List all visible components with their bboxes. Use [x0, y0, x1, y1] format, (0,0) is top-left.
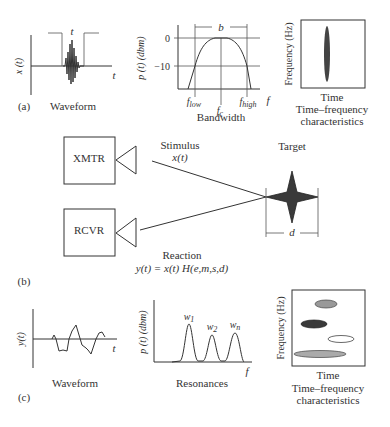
rcvr-antenna-icon [116, 218, 136, 247]
caption-line2: characteristics [301, 115, 364, 127]
resonance-ellipse-2 [301, 320, 327, 328]
panel-a: t t x (t) Waveform (a) b 0 −10 p (t) (db… [13, 20, 369, 127]
panel-label: (a) [18, 100, 31, 113]
waveform-x-plot: t t x (t) Waveform [13, 25, 116, 112]
caption: Bandwidth [197, 111, 246, 123]
w1-label: w1 [184, 311, 195, 324]
y-axis-label: Frequency (Hz) [275, 296, 287, 359]
x-axis-label: t [112, 342, 116, 354]
y-axis-label: Frequency (Hz) [283, 22, 295, 85]
bandwidth-curve [188, 38, 251, 89]
bandwidth-plot: b 0 −10 p (t) (dbm) f flow fc fhigh Band… [135, 21, 271, 123]
stimulus-path [152, 161, 266, 197]
w2-label: w2 [207, 321, 218, 334]
y-axis-label: y(t) [15, 331, 27, 347]
resonance-ellipse-1 [315, 300, 337, 308]
y-axis-label: x (t) [13, 57, 25, 75]
resonance-ellipse-4 [294, 351, 346, 358]
d-label: d [289, 226, 295, 238]
caption: Waveform [52, 377, 99, 389]
xmtr-antenna-icon [116, 146, 136, 174]
wn-label: wn [230, 319, 241, 332]
x-axis-label: t [112, 69, 116, 81]
resonance-ellipse-3 [328, 336, 354, 343]
pulse-waveform [63, 40, 84, 84]
impulse-ellipse [324, 26, 330, 82]
y-axis-label: p (t) (dbm) [137, 310, 149, 355]
rcvr-label: RCVR [74, 224, 105, 236]
resonances-plot: w1 w2 wn f p (t) (dbm) Resonances [137, 300, 252, 389]
panel-label: (c) [18, 391, 31, 404]
caption: Waveform [50, 100, 97, 112]
panel-label: (b) [18, 275, 31, 288]
y-axis-label: p (t) (dbm) [135, 36, 147, 81]
tick-0: 0 [165, 33, 170, 44]
caption: Resonances [176, 377, 228, 389]
f-low-label: flow [187, 96, 202, 109]
panel-b: XMTR RCVR Stimulus x(t) Target d Reactio… [18, 137, 318, 288]
time-frequency-plot-c: Frequency (Hz) Time Time–frequency chara… [275, 290, 365, 406]
time-frequency-plot-a: Frequency (Hz) Time Time–frequency chara… [283, 20, 369, 127]
pulse-width-label: t [70, 25, 74, 37]
radar-target-diagram: t t x (t) Waveform (a) b 0 −10 p (t) (db… [0, 0, 390, 427]
pulse-window-right [84, 33, 99, 66]
pulse-window-left [48, 33, 62, 66]
x-axis-label: f [266, 94, 271, 106]
xmtr-label: XMTR [73, 152, 105, 164]
x-axis-label: Time [317, 369, 340, 381]
x-axis-label: f [245, 365, 250, 377]
reaction-label: Reaction [162, 249, 202, 261]
x-axis-label: Time [321, 91, 344, 103]
stimulus-label: Stimulus [160, 139, 199, 151]
caption-line1: Time–frequency [292, 382, 365, 394]
caption-line2: characteristics [297, 394, 360, 406]
reaction-equation: y(t) = x(t) H(e,m,s,d) [135, 262, 229, 275]
caption-line1: Time–frequency [296, 103, 369, 115]
b-label: b [218, 21, 224, 33]
stimulus-equation: x(t) [171, 151, 188, 164]
target-label: Target [278, 140, 306, 152]
target-star-icon [266, 171, 318, 223]
plot-frame [301, 20, 365, 88]
waveform-y-plot: t y(t) Waveform [15, 309, 117, 389]
reaction-path [140, 197, 266, 230]
tick-minus10: −10 [154, 61, 170, 72]
panel-c: t y(t) Waveform (c) w1 w2 wn f p (t) (db… [15, 290, 365, 406]
f-high-label: fhigh [239, 96, 256, 109]
